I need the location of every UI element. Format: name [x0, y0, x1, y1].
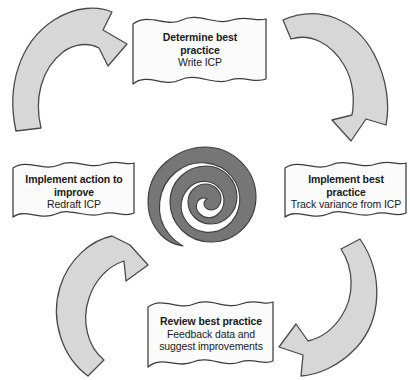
- arrow-bottom-to-left: [56, 236, 148, 376]
- banner-right: [285, 162, 406, 217]
- banner-top: [133, 17, 266, 84]
- spiral-icon: [148, 147, 256, 246]
- banner-bottom: [148, 302, 273, 367]
- arrow-top-to-right: [283, 14, 388, 141]
- banner-left: [13, 162, 134, 217]
- arrow-left-to-top: [13, 8, 127, 131]
- cycle-diagram: Determine best practice Write ICP Implem…: [0, 0, 410, 380]
- arrow-right-to-bottom: [279, 239, 377, 376]
- diagram-canvas: [0, 0, 410, 380]
